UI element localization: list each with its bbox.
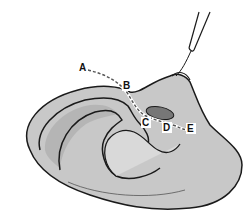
label-d: D: [162, 122, 172, 133]
svg-text:E: E: [187, 123, 194, 134]
svg-text:D: D: [163, 122, 170, 133]
label-e: E: [186, 123, 196, 134]
label-c: C: [141, 117, 151, 128]
probe-instrument: [176, 12, 210, 76]
svg-text:B: B: [123, 80, 130, 91]
ear-diagram: A B C D E: [0, 0, 251, 216]
svg-text:A: A: [79, 62, 86, 73]
svg-text:C: C: [142, 117, 149, 128]
label-b: B: [122, 80, 132, 91]
label-a: A: [78, 62, 88, 73]
